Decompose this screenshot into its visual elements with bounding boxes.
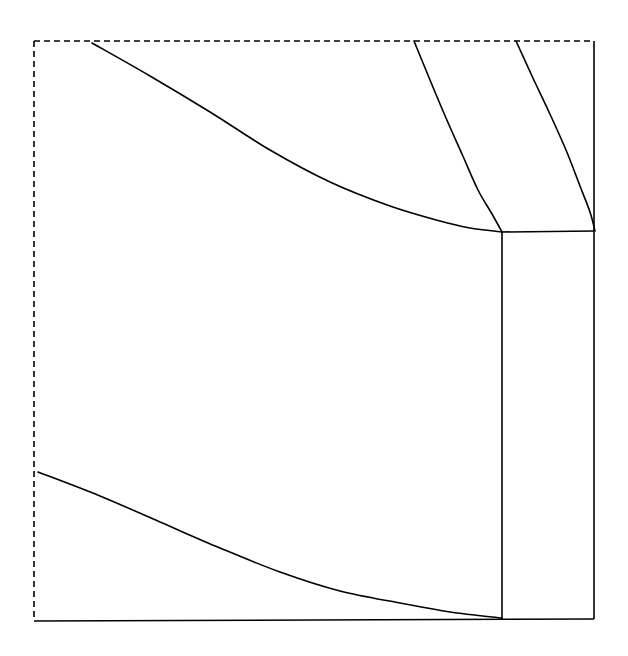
figure-canvas (0, 0, 628, 656)
geometry-diagram-svg (0, 0, 628, 656)
panel-top-horizontal-line (502, 231, 594, 232)
canvas-background (0, 0, 628, 656)
